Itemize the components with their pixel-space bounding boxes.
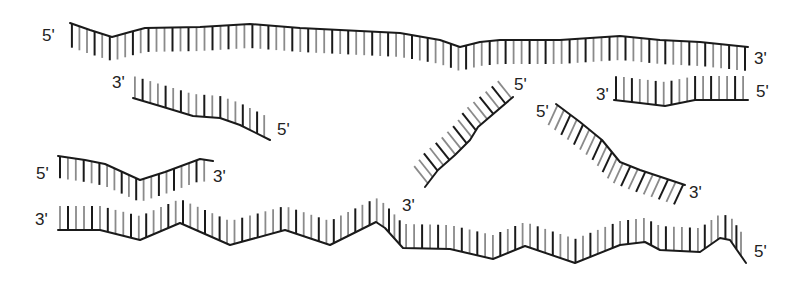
- base-ticks: [548, 105, 683, 204]
- base-tick: [548, 105, 557, 125]
- five-prime-end-label: 5': [756, 82, 769, 101]
- diagonal-strand-right: 5'3': [536, 102, 702, 204]
- base-tick: [636, 172, 645, 192]
- bottom-long-strand: 3'5': [35, 198, 767, 263]
- top-long-strand: 5'3': [42, 23, 767, 71]
- base-tick: [574, 125, 583, 145]
- base-ticks: [72, 24, 745, 71]
- base-tick: [651, 177, 660, 197]
- base-tick: [621, 166, 630, 186]
- three-prime-end-label: 3': [112, 73, 125, 92]
- five-prime-end-label: 5': [754, 242, 767, 261]
- short-strand-left: 3'5': [112, 73, 290, 140]
- five-prime-end-label: 5': [536, 102, 549, 121]
- diagonal-strand-left: 5'3': [402, 75, 527, 215]
- base-tick: [674, 184, 683, 204]
- base-ticks: [414, 81, 511, 183]
- three-prime-end-label: 3': [689, 183, 702, 202]
- five-prime-end-label: 5': [42, 26, 55, 45]
- base-ticks: [616, 76, 743, 106]
- base-tick: [561, 115, 570, 135]
- three-prime-end-label: 3': [213, 167, 226, 186]
- dna-strands-diagram: 5'3'3'5'3'5'5'3'5'3'5'3'3'5': [0, 0, 812, 283]
- five-prime-end-label: 5': [36, 164, 49, 183]
- right-upper-strand: 3'5': [596, 76, 769, 106]
- base-ticks: [60, 156, 204, 201]
- three-prime-end-label: 3': [596, 85, 609, 104]
- base-tick: [598, 146, 607, 166]
- sugar-phosphate-backbone: [614, 100, 748, 106]
- base-tick: [608, 158, 617, 178]
- base-tick: [603, 152, 612, 172]
- base-tick: [592, 140, 601, 160]
- middle-left-strand: 5'3': [36, 156, 226, 201]
- three-prime-end-label: 3': [402, 196, 415, 215]
- three-prime-end-label: 3': [754, 49, 767, 68]
- five-prime-end-label: 5': [514, 75, 527, 94]
- sugar-phosphate-backbone: [556, 104, 685, 185]
- base-tick: [666, 182, 675, 202]
- base-tick: [614, 163, 623, 183]
- three-prime-end-label: 3': [35, 210, 48, 229]
- base-tick: [629, 169, 638, 189]
- five-prime-end-label: 5': [277, 120, 290, 139]
- base-tick: [659, 179, 668, 199]
- base-tick: [568, 120, 577, 140]
- strand-layer: 5'3'3'5'3'5'5'3'5'3'5'3'3'5': [35, 23, 769, 263]
- base-tick: [644, 174, 653, 194]
- base-tick: [580, 130, 589, 150]
- base-tick: [555, 110, 564, 130]
- base-tick: [586, 135, 595, 155]
